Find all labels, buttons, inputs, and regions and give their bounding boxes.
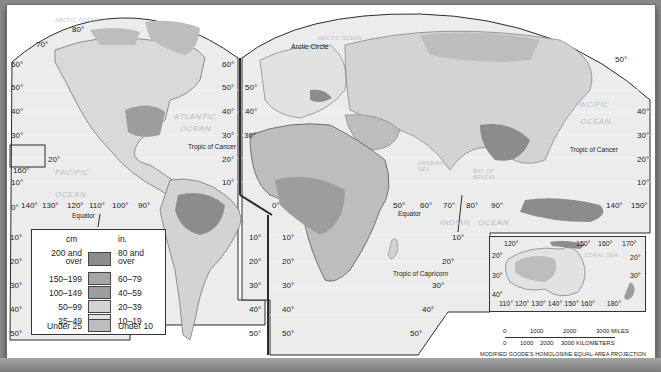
lon-label: 80°	[466, 201, 478, 210]
legend-in: 80 andover	[118, 249, 144, 265]
australia-inset: 120° 150° 160° 170° CORAL SEA 20° 30° 40…	[489, 236, 646, 312]
lat-label: 20°	[48, 155, 60, 164]
lat-label: 30°	[222, 131, 234, 140]
pacific-ocean-label-left-1: PACIFIC	[55, 168, 89, 177]
legend-in: 60–79	[118, 275, 142, 283]
lon-label: 0°	[272, 201, 280, 210]
lat-label: 60°	[11, 60, 23, 69]
lat-label: 30°	[249, 281, 261, 290]
lat-label: 60°	[222, 60, 234, 69]
lat-label: 50°	[245, 83, 257, 92]
legend-cm: 100–149	[49, 289, 82, 297]
scale-km-3000: 3000 KILOMETERS	[561, 340, 615, 346]
legend-cm: 150–199	[49, 275, 82, 283]
lon-label: 70°	[443, 201, 455, 210]
lat-label: 50°	[615, 55, 627, 64]
lat-label: 20°	[637, 155, 649, 164]
lat-label: 40°	[422, 305, 434, 314]
lon-label: 130°	[42, 201, 59, 210]
legend-in: 40–59	[118, 289, 142, 297]
legend-row: 100–149 40–59	[32, 286, 165, 300]
legend-row: 200 andover 80 andover	[32, 248, 165, 270]
legend-row: 150–199 60–79	[32, 272, 165, 286]
pacific-ocean-label-right-1: PACIFIC	[575, 100, 609, 109]
legend-swatch	[88, 252, 111, 266]
lat-label: 10°	[222, 178, 234, 187]
inset-lat-label: 30°	[492, 272, 503, 279]
scale-miles-1000: 1000	[530, 328, 543, 334]
bay-of-bengal-label: BAY OF BENGAL	[473, 168, 495, 180]
lat-label: 10°	[637, 178, 649, 187]
projection-label: MODIFIED GOODE'S HOMOLOSINE EQUAL-AREA P…	[480, 351, 646, 357]
lat-label: 50°	[222, 83, 234, 92]
scale-miles-0: 0	[503, 328, 506, 334]
lat-label: 30°	[282, 281, 294, 290]
legend-swatch	[88, 300, 111, 313]
lat-label: 70°	[36, 40, 48, 49]
inset-lat-label: 20°	[630, 254, 641, 261]
lon-label: 60°	[420, 201, 432, 210]
arctic-circle-label: Arctic Circle	[291, 43, 328, 50]
legend-row: 50–99 20–39	[32, 300, 165, 314]
lat-label: 50°	[249, 329, 261, 338]
arabian-sea-label: ARABIAN SEA	[418, 160, 438, 172]
inset-lon-label: 120°	[504, 240, 518, 247]
scale-miles-2000: 2000	[563, 328, 576, 334]
indian-ocean-label-1: INDIAN	[440, 218, 470, 227]
inset-lat-label: 40°	[492, 291, 503, 298]
lat-label: 0°	[11, 203, 19, 212]
lat-label: 50°	[282, 329, 294, 338]
lat-label: 20°	[10, 257, 22, 266]
lon-label: 120°	[67, 201, 84, 210]
lon-label: 90°	[491, 201, 503, 210]
legend-cm: 50–99	[58, 303, 82, 311]
inset-lon-label: 150°	[576, 240, 590, 247]
inset-lat-label: 20°	[492, 252, 503, 259]
lon-label: 150°	[631, 201, 648, 210]
lat-label: 50°	[410, 329, 422, 338]
lat-label: 50°	[11, 83, 23, 92]
lat-label: 50°	[10, 329, 22, 338]
lon-label: 50°	[393, 201, 405, 210]
eastern-us-wet	[125, 105, 165, 136]
lat-label: 10°	[249, 233, 261, 242]
lat-label: 40°	[245, 107, 257, 116]
lon-label: 110°	[89, 201, 105, 210]
inset-lon-label: 170°	[622, 240, 636, 247]
scale-bar-line	[505, 337, 615, 338]
legend-swatch	[88, 319, 111, 332]
legend-row-under: Under 25 Under 10	[32, 319, 165, 333]
legend-swatch	[88, 286, 111, 299]
inset-bottom-labels: 110° 120° 130° 140° 150° 160° 180°	[499, 300, 621, 307]
scale-km-2000: 2000	[540, 340, 553, 346]
lon-label: 90°	[138, 201, 150, 210]
scale-km-1000: 1000	[520, 340, 533, 346]
lat-label: 80°	[72, 25, 84, 34]
pacific-ocean-label-left-2: OCEAN	[55, 190, 86, 199]
equator-left-label: Equator	[72, 212, 95, 219]
scale-miles-3000: 3000 MILES	[596, 328, 629, 334]
inset-lat-label: 30°	[630, 272, 641, 279]
tropic-of-cancer-right-label: Tropic of Cancer	[570, 146, 618, 153]
lat-label: 40°	[282, 305, 294, 314]
lat-label: 40°	[222, 107, 234, 116]
inset-lon-label: 160°	[598, 240, 612, 247]
tropic-of-capricorn-label: Tropic of Capricorn	[393, 270, 448, 277]
legend-swatch	[88, 272, 111, 285]
legend-header-in: in.	[118, 234, 127, 244]
lat-label: 10°	[11, 178, 23, 187]
lat-label: 10°	[10, 233, 22, 242]
lat-label: 20°	[249, 257, 261, 266]
lat-label: 10°	[282, 233, 294, 242]
lat-label: 40°	[10, 305, 22, 314]
atlantic-ocean-label-1: ATLANTIC	[174, 112, 216, 121]
lat-label: 10°	[452, 233, 464, 242]
lon-label: 140°	[21, 201, 38, 210]
indian-ocean-label-2: OCEAN	[478, 218, 509, 227]
lat-label: 40°	[11, 107, 23, 116]
lon-label: 140°	[606, 201, 623, 210]
legend-in: 20–39	[118, 303, 142, 311]
pacific-ocean-label-right-2: OCEAN	[580, 117, 611, 126]
lat-label: 30°	[244, 131, 256, 140]
atlantic-ocean-label-2: OCEAN	[180, 124, 211, 133]
